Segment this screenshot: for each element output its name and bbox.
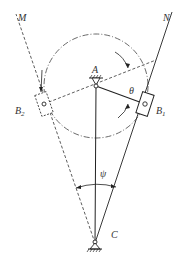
label-c: C <box>111 229 118 240</box>
pin-b2 <box>42 102 46 106</box>
pivot-c-ground-icon <box>87 240 102 252</box>
rotation-arrow-icon <box>115 52 128 68</box>
mechanism-diagram: M N A θ B1 B2 ψ C <box>0 0 176 256</box>
label-m: M <box>17 12 27 23</box>
guide-line-m <box>16 14 95 243</box>
guide-line-n <box>95 12 172 243</box>
label-b1: B1 <box>156 105 166 118</box>
label-n: N <box>162 12 171 23</box>
crank-ab1 <box>96 86 145 104</box>
theta-arc-icon <box>118 104 128 118</box>
pin-b1 <box>143 102 147 106</box>
label-b2: B2 <box>15 105 25 118</box>
label-theta: θ <box>129 85 134 96</box>
frame-line-ac <box>95 86 96 243</box>
psi-arc-icon <box>76 184 116 188</box>
extension-line <box>44 60 156 104</box>
label-a: A <box>91 64 99 75</box>
label-psi: ψ <box>100 168 107 179</box>
